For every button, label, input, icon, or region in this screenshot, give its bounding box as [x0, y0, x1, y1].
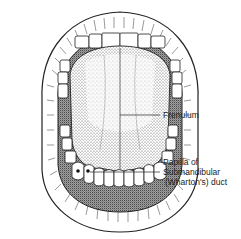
label-papilla-line1: Papilla of	[163, 157, 227, 167]
duct-papilla-right	[86, 169, 90, 173]
label-frenulum: Frenulum	[163, 110, 199, 120]
duct-papilla-left	[76, 169, 80, 173]
label-papilla: Papilla of Submandibular (Wharton's) duc…	[163, 157, 227, 187]
label-papilla-line3: (Wharton's) duct	[163, 177, 227, 187]
mouth-anatomy-illustration	[0, 0, 241, 239]
label-papilla-line2: Submandibular	[163, 167, 227, 177]
